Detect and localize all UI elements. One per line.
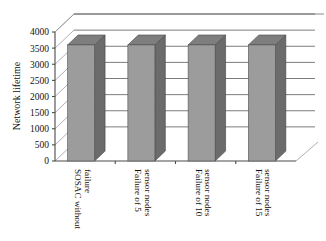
floor-right-diagonal (296, 142, 318, 161)
bar-chart: 05001000150020002500300035004000 Network… (0, 0, 326, 241)
bar-side-face (95, 35, 105, 161)
bar-side-face (155, 35, 165, 161)
y-tick-label: 2000 (30, 92, 49, 102)
category-label: sensor nodes (143, 169, 153, 217)
chart-svg: 05001000150020002500300035004000 Network… (0, 0, 326, 241)
y-axis (52, 32, 55, 161)
bar-side-face (275, 35, 285, 161)
bar-front-face (128, 45, 155, 161)
bar-front-face (68, 45, 95, 161)
bars-group (68, 35, 286, 161)
y-tick-label: 500 (35, 140, 50, 150)
category-labels-group: SOSAC withoutfailureFailure of 5sensor n… (73, 169, 273, 229)
category-label: Failure of 10 (194, 169, 204, 217)
bar (248, 35, 285, 161)
category-label: sensor nodes (263, 169, 273, 217)
depth-diagonal (55, 14, 74, 32)
y-axis-title: Network lifetime (11, 61, 22, 130)
y-tick-labels-group: 05001000150020002500300035004000 (30, 27, 49, 166)
bar (128, 35, 165, 161)
category-label: sensor nodes (203, 169, 213, 217)
y-tick-label: 3500 (30, 44, 49, 54)
bar-front-face (248, 45, 275, 161)
y-tick-label: 0 (44, 156, 49, 166)
y-tick-label: 2500 (30, 76, 49, 86)
bar (188, 35, 225, 161)
category-label: failure (83, 169, 93, 193)
y-tick-label: 1500 (30, 108, 49, 118)
y-tick-label: 1000 (30, 124, 49, 134)
bar-side-face (215, 35, 225, 161)
y-tick-label: 3000 (30, 60, 49, 70)
bar-front-face (188, 45, 215, 161)
category-label: Failure of 15 (254, 169, 264, 217)
bar (68, 35, 105, 161)
category-label: SOSAC without (73, 169, 83, 229)
y-tick-label: 4000 (30, 27, 49, 37)
chart-3d-frame (55, 14, 324, 32)
category-label: Failure of 5 (133, 169, 143, 212)
